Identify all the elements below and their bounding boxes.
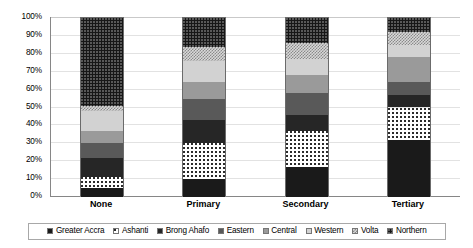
x-axis: NonePrimarySecondaryTertiary bbox=[50, 199, 459, 215]
legend-item-western[interactable]: Western bbox=[306, 227, 344, 235]
bar-segment[interactable] bbox=[81, 18, 123, 106]
bar-group-none[interactable] bbox=[80, 17, 124, 196]
legend-label: Central bbox=[271, 227, 296, 235]
legend-label: Brong Ahafo bbox=[166, 227, 209, 235]
bar-stack bbox=[387, 17, 431, 196]
bar-segment[interactable] bbox=[388, 82, 430, 95]
legend-swatch-icon bbox=[306, 228, 312, 234]
bar-stack bbox=[285, 17, 329, 196]
legend-swatch-icon bbox=[387, 228, 393, 234]
bar-segment[interactable] bbox=[388, 18, 430, 32]
x-tick-label-primary: Primary bbox=[187, 199, 221, 209]
legend-swatch-icon bbox=[352, 228, 358, 234]
bar-segment[interactable] bbox=[183, 143, 225, 179]
legend-label: Western bbox=[314, 227, 343, 235]
y-tick-label: 40% bbox=[26, 120, 42, 128]
bar-segment[interactable] bbox=[81, 188, 123, 197]
bar-segment[interactable] bbox=[183, 61, 225, 82]
legend-swatch-icon bbox=[263, 228, 269, 234]
y-tick-label: 20% bbox=[26, 156, 42, 164]
legend-label: Eastern bbox=[227, 227, 254, 235]
legend-item-eastern[interactable]: Eastern bbox=[218, 227, 254, 235]
bar-segment[interactable] bbox=[183, 47, 225, 61]
bar-segment[interactable] bbox=[286, 75, 328, 93]
bar-segment[interactable] bbox=[388, 45, 430, 58]
bar-segment[interactable] bbox=[286, 93, 328, 114]
bar-stack bbox=[80, 17, 124, 196]
plot-area bbox=[50, 17, 460, 197]
y-tick-label: 80% bbox=[26, 49, 42, 57]
legend-label: Northern bbox=[396, 227, 427, 235]
bar-segment[interactable] bbox=[81, 143, 123, 157]
bar-segment[interactable] bbox=[388, 140, 430, 197]
y-axis: 0%10%20%30%40%50%60%70%80%90%100% bbox=[0, 11, 46, 201]
y-tick-label: 70% bbox=[26, 67, 42, 75]
bar-segment[interactable] bbox=[388, 108, 430, 140]
legend-swatch-icon bbox=[157, 228, 163, 234]
bar-stack bbox=[182, 17, 226, 196]
bar-segment[interactable] bbox=[388, 95, 430, 108]
bar-segment[interactable] bbox=[286, 131, 328, 167]
bar-segment[interactable] bbox=[388, 57, 430, 82]
x-tick-label-tertiary: Tertiary bbox=[392, 199, 424, 209]
x-tick-label-secondary: Secondary bbox=[283, 199, 329, 209]
y-tick-label: 100% bbox=[21, 13, 42, 21]
bar-segment[interactable] bbox=[183, 99, 225, 120]
bar-segment[interactable] bbox=[81, 177, 123, 188]
legend-item-volta[interactable]: Volta bbox=[352, 227, 378, 235]
bar-segment[interactable] bbox=[81, 106, 123, 111]
bar-segment[interactable] bbox=[183, 18, 225, 47]
y-tick-label: 30% bbox=[26, 138, 42, 146]
legend-item-northern[interactable]: Northern bbox=[387, 227, 426, 235]
y-tick-label: 90% bbox=[26, 31, 42, 39]
bar-segment[interactable] bbox=[286, 59, 328, 75]
bar-segment[interactable] bbox=[81, 131, 123, 144]
bar-segment[interactable] bbox=[183, 179, 225, 197]
bar-group-secondary[interactable] bbox=[285, 17, 329, 196]
legend-item-greater-accra[interactable]: Greater Accra bbox=[47, 227, 104, 235]
bar-segment[interactable] bbox=[286, 43, 328, 59]
y-tick-label: 60% bbox=[26, 84, 42, 92]
legend-swatch-icon bbox=[218, 228, 224, 234]
legend-label: Greater Accra bbox=[56, 227, 105, 235]
legend-swatch-icon bbox=[47, 228, 53, 234]
bar-group-primary[interactable] bbox=[182, 17, 226, 196]
y-tick-label: 50% bbox=[26, 102, 42, 110]
bar-segment[interactable] bbox=[388, 32, 430, 45]
legend-item-brong-ahafo[interactable]: Brong Ahafo bbox=[157, 227, 209, 235]
y-tick-label: 0% bbox=[30, 192, 42, 200]
legend-label: Volta bbox=[361, 227, 378, 235]
bar-segment[interactable] bbox=[81, 158, 123, 178]
bar-segment[interactable] bbox=[183, 120, 225, 143]
x-tick-label-none: None bbox=[90, 199, 113, 209]
plot-wrapper: 0%10%20%30%40%50%60%70%80%90%100% NonePr… bbox=[0, 0, 473, 216]
legend-item-ashanti[interactable]: Ashanti bbox=[113, 227, 148, 235]
legend-swatch-icon bbox=[113, 228, 119, 234]
bar-group-tertiary[interactable] bbox=[387, 17, 431, 196]
chart-legend: Greater AccraAshantiBrong AhafoEasternCe… bbox=[28, 223, 446, 240]
y-tick-label: 10% bbox=[26, 174, 42, 182]
legend-item-central[interactable]: Central bbox=[263, 227, 297, 235]
bar-segment[interactable] bbox=[286, 18, 328, 43]
bar-segment[interactable] bbox=[183, 82, 225, 98]
legend-label: Ashanti bbox=[122, 227, 148, 235]
bar-segment[interactable] bbox=[81, 111, 123, 131]
bar-segment[interactable] bbox=[286, 167, 328, 197]
stacked-bar-chart: 0%10%20%30%40%50%60%70%80%90%100% NonePr… bbox=[0, 0, 473, 248]
bars-layer bbox=[51, 17, 460, 196]
bar-segment[interactable] bbox=[286, 115, 328, 131]
